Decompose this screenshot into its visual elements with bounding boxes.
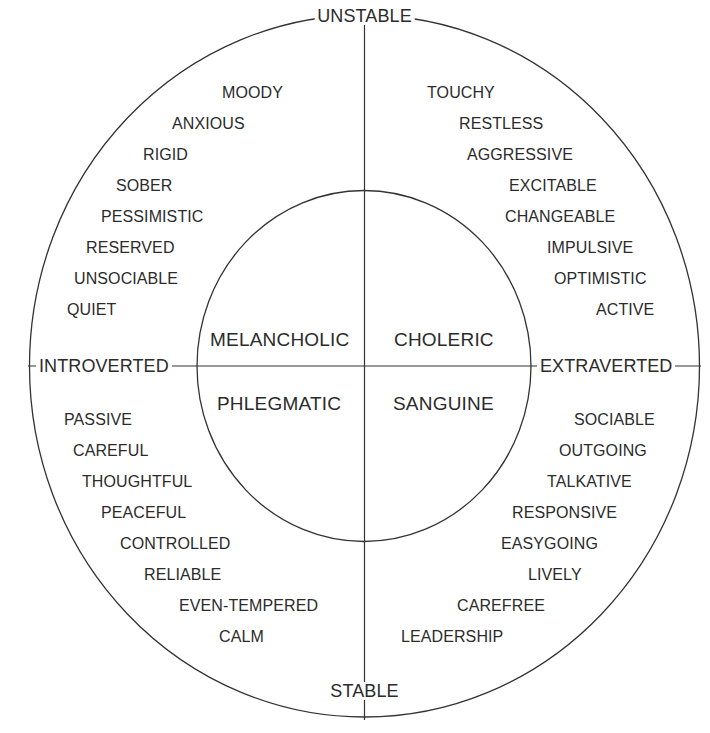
- trait-label: THOUGHTFUL: [82, 474, 192, 490]
- temperament-sanguine: SANGUINE: [393, 394, 494, 413]
- temperament-phlegmatic: PHLEGMATIC: [217, 394, 341, 413]
- trait-label: LEADERSHIP: [401, 629, 503, 645]
- trait-label: TOUCHY: [427, 85, 495, 101]
- trait-label: TALKATIVE: [547, 474, 632, 490]
- trait-label: SOBER: [116, 178, 173, 194]
- trait-label: OUTGOING: [559, 443, 647, 459]
- trait-label: PEACEFUL: [101, 505, 186, 521]
- axis-label-introverted: INTROVERTED: [36, 357, 172, 375]
- trait-label: CHANGEABLE: [505, 209, 615, 225]
- trait-label: ACTIVE: [596, 302, 654, 318]
- trait-label: EVEN-TEMPERED: [179, 598, 318, 614]
- axis-label-stable: STABLE: [327, 682, 401, 700]
- trait-label: RELIABLE: [144, 567, 221, 583]
- trait-label: RESERVED: [86, 240, 175, 256]
- trait-label: CALM: [219, 629, 264, 645]
- trait-label: PASSIVE: [64, 412, 132, 428]
- trait-label: EXCITABLE: [509, 178, 597, 194]
- trait-label: OPTIMISTIC: [554, 271, 647, 287]
- trait-label: RESTLESS: [459, 116, 543, 132]
- temperament-melancholic: MELANCHOLIC: [210, 330, 349, 349]
- trait-label: QUIET: [67, 302, 116, 318]
- trait-label: AGGRESSIVE: [467, 147, 573, 163]
- trait-label: CAREFREE: [457, 598, 545, 614]
- trait-label: EASYGOING: [501, 536, 598, 552]
- trait-label: UNSOCIABLE: [74, 271, 178, 287]
- trait-label: PESSIMISTIC: [101, 209, 203, 225]
- axis-label-unstable: UNSTABLE: [314, 7, 415, 25]
- trait-label: SOCIABLE: [574, 412, 655, 428]
- temperament-choleric: CHOLERIC: [394, 330, 494, 349]
- trait-label: ANXIOUS: [172, 116, 245, 132]
- trait-label: RESPONSIVE: [512, 505, 617, 521]
- trait-label: RIGID: [143, 147, 188, 163]
- trait-label: MOODY: [222, 85, 283, 101]
- trait-label: LIVELY: [528, 567, 582, 583]
- axis-label-extraverted: EXTRAVERTED: [537, 357, 675, 375]
- trait-label: CAREFUL: [73, 443, 148, 459]
- trait-label: IMPULSIVE: [547, 240, 633, 256]
- trait-label: CONTROLLED: [120, 536, 230, 552]
- temperament-diagram: UNSTABLE STABLE INTROVERTED EXTRAVERTED …: [0, 0, 710, 733]
